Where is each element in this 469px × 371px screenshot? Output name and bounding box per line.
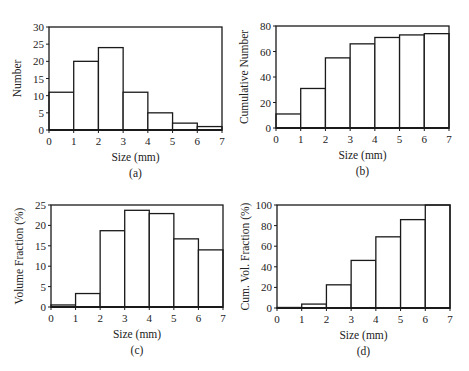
bars: [276, 34, 449, 128]
panel-label: (d): [357, 345, 371, 358]
chart-panel-b: 02040608001234567Size (mm)(b)Cumulative …: [238, 20, 452, 178]
bar: [123, 92, 148, 130]
x-axis-ticks: 01234567: [274, 308, 453, 325]
y-tick-label: 0: [267, 302, 273, 314]
x-tick-label: 4: [147, 312, 153, 324]
y-tick-label: 20: [35, 219, 47, 231]
y-tick-label: 40: [260, 71, 272, 83]
bar: [173, 123, 198, 130]
y-tick-label: 100: [256, 199, 273, 211]
x-tick-label: 0: [48, 312, 54, 324]
x-tick-label: 3: [347, 133, 353, 145]
y-tick-label: 0: [266, 122, 272, 134]
x-tick-label: 6: [422, 133, 428, 145]
x-axis-ticks: 01234567: [273, 128, 452, 145]
y-tick-label: 20: [33, 55, 45, 67]
x-tick-label: 7: [219, 135, 225, 147]
chart-panel-d: 02040608010001234567Size (mm)(d)Cum. Vol…: [239, 199, 453, 358]
bar: [174, 239, 199, 307]
y-axis-label: Number: [11, 59, 23, 97]
x-tick-label: 3: [122, 312, 128, 324]
x-tick-label: 2: [97, 312, 103, 324]
x-tick-label: 1: [298, 133, 304, 145]
x-tick-label: 2: [323, 133, 329, 145]
x-tick-label: 5: [397, 133, 403, 145]
y-tick-label: 60: [260, 46, 272, 58]
y-axis-label: Cum. Vol. Fraction (%): [239, 202, 252, 310]
y-tick-label: 20: [260, 97, 272, 109]
x-tick-label: 4: [145, 135, 151, 147]
bar: [350, 44, 375, 128]
bar: [425, 205, 450, 308]
x-tick-label: 0: [273, 133, 279, 145]
y-tick-label: 80: [260, 20, 272, 32]
x-tick-label: 0: [46, 135, 52, 147]
x-axis-ticks: 01234567: [46, 130, 225, 147]
x-tick-label: 7: [447, 313, 453, 325]
panel-label: (a): [129, 167, 142, 180]
x-axis-label: Size (mm): [339, 329, 387, 342]
y-axis-label: Cumulative Number: [238, 30, 250, 124]
x-tick-label: 5: [170, 135, 176, 147]
bar: [148, 113, 173, 130]
bar: [301, 88, 326, 128]
y-tick-label: 20: [261, 281, 273, 293]
y-tick-label: 15: [35, 240, 47, 252]
x-axis-label: Size (mm): [113, 328, 161, 341]
y-tick-label: 15: [33, 73, 45, 85]
chart-panel-a: 05101520253001234567Size (mm)(a)Number: [11, 21, 225, 180]
y-tick-label: 10: [35, 260, 47, 272]
bar: [400, 35, 425, 128]
y-tick-label: 80: [261, 220, 273, 232]
x-tick-label: 1: [299, 313, 305, 325]
bar: [276, 114, 301, 128]
panel-label: (b): [356, 165, 370, 178]
bar: [375, 37, 400, 128]
x-tick-label: 3: [120, 135, 126, 147]
y-tick-label: 5: [41, 281, 47, 293]
bar: [74, 61, 99, 130]
x-tick-label: 1: [71, 135, 77, 147]
x-tick-label: 2: [324, 313, 330, 325]
y-tick-label: 25: [35, 199, 47, 211]
chart-panel-c: 051015202501234567Size (mm)(c)Volume Fra…: [13, 199, 226, 357]
bar: [325, 58, 350, 128]
x-tick-label: 4: [373, 313, 379, 325]
y-tick-label: 60: [261, 240, 273, 252]
bar: [49, 92, 74, 130]
x-tick-label: 2: [96, 135, 102, 147]
x-tick-label: 7: [220, 312, 226, 324]
x-axis-ticks: 01234567: [48, 307, 226, 324]
x-tick-label: 7: [446, 133, 452, 145]
x-tick-label: 6: [423, 313, 429, 325]
x-tick-label: 0: [274, 313, 280, 325]
y-axis-ticks: 020406080: [260, 20, 276, 134]
y-axis-ticks: 020406080100: [256, 199, 278, 314]
y-tick-label: 40: [261, 261, 273, 273]
figure: 05101520253001234567Size (mm)(a)Number02…: [0, 0, 469, 371]
bars: [277, 205, 450, 308]
x-axis-label: Size (mm): [111, 151, 159, 164]
panel-label: (c): [131, 344, 144, 357]
y-axis-ticks: 0510152025: [35, 199, 51, 313]
y-tick-label: 5: [39, 107, 45, 119]
bars: [51, 210, 223, 307]
x-tick-label: 3: [348, 313, 354, 325]
bar: [424, 34, 449, 128]
bar: [125, 210, 150, 307]
x-tick-label: 5: [398, 313, 404, 325]
x-tick-label: 5: [171, 312, 177, 324]
bar: [98, 48, 123, 130]
bar: [149, 214, 174, 307]
y-tick-label: 25: [33, 38, 45, 50]
bar: [351, 260, 376, 308]
histogram-figure: 05101520253001234567Size (mm)(a)Number02…: [0, 0, 469, 371]
bar: [198, 250, 223, 307]
bar: [376, 237, 401, 308]
bars: [49, 48, 222, 130]
x-tick-label: 4: [372, 133, 378, 145]
bar: [401, 220, 426, 308]
y-tick-label: 0: [39, 124, 45, 136]
bar: [100, 231, 125, 307]
bar: [76, 294, 101, 307]
